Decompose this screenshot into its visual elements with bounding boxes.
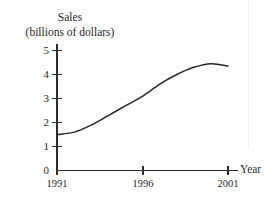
y-tick-label-3: 3 [33, 93, 49, 104]
y-tick-label-0: 0 [33, 165, 49, 176]
x-tick-label-1991: 1991 [37, 179, 77, 190]
y-tick-label-2: 2 [33, 117, 49, 128]
x-tick-label-2001: 2001 [208, 179, 248, 190]
sales-curve-main [58, 64, 229, 135]
x-axis-label: Year [240, 164, 261, 176]
y-tick-label-5: 5 [33, 45, 49, 56]
x-tick-label-1996: 1996 [123, 179, 163, 190]
sales-line-chart: Sales (billions of dollars) 5 4 3 2 1 0 … [0, 0, 274, 199]
y-tick-label-1: 1 [33, 141, 49, 152]
y-tick-label-4: 4 [33, 69, 49, 80]
